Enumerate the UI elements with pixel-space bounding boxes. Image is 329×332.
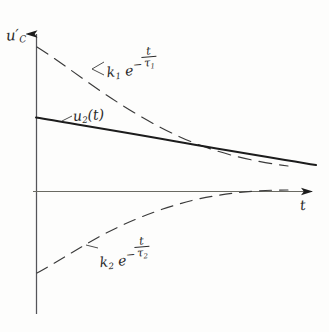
leader-u2 [62, 116, 72, 121]
x-axis-label: t [299, 197, 306, 214]
annotation-k1-exponential: k1 e−tτ1 [105, 47, 158, 82]
leader-k1-mark [92, 62, 104, 75]
figure-canvas: u′C t k1 e−tτ1 u2(t) k2 e−tτ2 [0, 0, 329, 332]
leader-k2-mark [86, 245, 98, 248]
y-axis-label: u′C [5, 25, 26, 45]
k2-tau-subscript: 2 [143, 252, 148, 260]
k2-coefficient-subscript: 2 [108, 261, 114, 271]
leader-k2 [86, 245, 98, 248]
y-axis-label-subscript: C [19, 33, 27, 44]
k1-coefficient-subscript: 1 [115, 71, 121, 81]
x-axis-label-text: t [299, 197, 306, 214]
curve-k1-exponential [37, 47, 288, 166]
leader-u2-mark [62, 116, 72, 121]
k1-tau-subscript: 1 [150, 62, 155, 70]
k1-exponent-fraction: tτ1 [141, 45, 158, 72]
k2-exponent-fraction: tτ2 [134, 235, 151, 262]
k2-exponent-denominator: τ2 [135, 246, 151, 261]
curve-k2-exponential [37, 190, 288, 273]
annotation-k2-exponential: k2 e−tτ2 [98, 237, 151, 272]
annotation-u2-response: u2(t) [72, 106, 104, 126]
curve-k1-path [37, 47, 288, 166]
curve-k2-path [37, 190, 288, 273]
leader-k1 [92, 62, 104, 75]
u2-paren-close: ) [98, 106, 105, 122]
sketch-svg [0, 0, 329, 332]
k1-exponent-denominator: τ1 [142, 56, 158, 71]
